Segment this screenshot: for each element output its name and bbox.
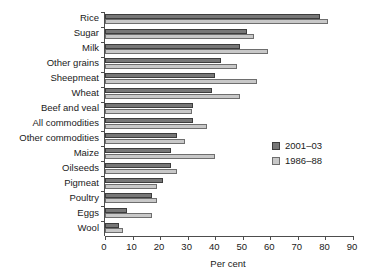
bar-other-grains-series-2	[105, 64, 237, 69]
bar-poultry-series-2	[105, 198, 157, 203]
category-label-wool: Wool	[0, 223, 99, 233]
bar-milk-series-1	[105, 44, 240, 49]
bar-other-commodities-series-2	[105, 139, 185, 144]
x-axis-tick-label-80: 80	[312, 241, 336, 252]
bar-sugar-series-2	[105, 34, 254, 39]
x-axis-tick-label-60: 60	[257, 241, 281, 252]
x-axis-tick-80	[325, 236, 326, 240]
bar-other-grains-series-1	[105, 58, 221, 63]
bar-all-commodities-series-1	[105, 118, 193, 123]
bar-wheat-series-2	[105, 94, 240, 99]
category-label-milk: Milk	[0, 43, 99, 53]
x-axis-tick-label-70: 70	[285, 241, 309, 252]
category-label-other-grains: Other grains	[0, 58, 99, 68]
x-axis-tick-50	[243, 236, 244, 240]
category-label-sheepmeat: Sheepmeat	[0, 73, 99, 83]
x-axis-tick-label-30: 30	[175, 241, 199, 252]
bar-other-commodities-series-1	[105, 133, 177, 138]
bar-maize-series-1	[105, 148, 171, 153]
bar-pigmeat-series-1	[105, 178, 163, 183]
category-label-wheat: Wheat	[0, 88, 99, 98]
legend-item: 2001–03	[272, 139, 322, 152]
x-axis-title: Per cent	[104, 258, 352, 269]
x-axis-tick-label-0: 0	[92, 241, 116, 252]
x-axis-tick-label-10: 10	[120, 241, 144, 252]
bar-beef-and-veal-series-1	[105, 103, 193, 108]
category-label-eggs: Eggs	[0, 208, 99, 218]
category-label-maize: Maize	[0, 148, 99, 158]
legend-label-series-2: 1986–88	[285, 156, 322, 166]
bar-beef-and-veal-series-2	[105, 109, 192, 114]
bar-rice-series-2	[105, 19, 328, 24]
x-axis-tick-30	[188, 236, 189, 240]
bar-eggs-series-1	[105, 208, 127, 213]
bar-milk-series-2	[105, 49, 268, 54]
bar-all-commodities-series-2	[105, 124, 207, 129]
legend-label-series-1: 2001–03	[285, 141, 322, 151]
bar-wool-series-2	[105, 228, 123, 233]
x-axis-tick-label-40: 40	[202, 241, 226, 252]
x-axis-tick-label-50: 50	[230, 241, 254, 252]
bar-sheepmeat-series-1	[105, 73, 215, 78]
legend-swatch-series-1	[272, 142, 280, 150]
bar-pigmeat-series-2	[105, 184, 157, 189]
category-label-poultry: Poultry	[0, 193, 99, 203]
bar-oilseeds-series-1	[105, 163, 171, 168]
x-axis-tick-0	[105, 236, 106, 240]
category-axis-labels: RiceSugarMilkOther grainsSheepmeatWheatB…	[0, 12, 99, 236]
x-axis-line	[105, 236, 353, 237]
bar-wheat-series-1	[105, 88, 212, 93]
x-axis-tick-10	[133, 236, 134, 240]
plot-area	[104, 12, 352, 236]
bar-maize-series-2	[105, 154, 215, 159]
x-axis-tick-60	[270, 236, 271, 240]
bar-oilseeds-series-2	[105, 169, 177, 174]
category-label-sugar: Sugar	[0, 28, 99, 38]
bar-rice-series-1	[105, 14, 320, 19]
category-label-rice: Rice	[0, 13, 99, 23]
bar-sheepmeat-series-2	[105, 79, 257, 84]
category-label-beef-and-veal: Beef and veal	[0, 103, 99, 113]
x-axis-tick-label-20: 20	[147, 241, 171, 252]
x-axis-tick-70	[298, 236, 299, 240]
category-label-other-commodities: Other commodities	[0, 133, 99, 143]
chart-legend: 2001–03 1986–88	[272, 139, 322, 169]
legend-item: 1986–88	[272, 154, 322, 167]
bar-chart: RiceSugarMilkOther grainsSheepmeatWheatB…	[0, 0, 375, 278]
x-axis-tick-90	[353, 236, 354, 240]
x-axis-tick-40	[215, 236, 216, 240]
category-label-pigmeat: Pigmeat	[0, 178, 99, 188]
bar-eggs-series-2	[105, 213, 152, 218]
bar-poultry-series-1	[105, 193, 152, 198]
category-label-oilseeds: Oilseeds	[0, 163, 99, 173]
bar-wool-series-1	[105, 223, 119, 228]
clipped-title-artifact	[120, 0, 280, 3]
category-label-all-commodities: All commodities	[0, 118, 99, 128]
x-axis-tick-label-90: 90	[340, 241, 364, 252]
legend-swatch-series-2	[272, 157, 280, 165]
bar-sugar-series-1	[105, 29, 247, 34]
x-axis-tick-20	[160, 236, 161, 240]
